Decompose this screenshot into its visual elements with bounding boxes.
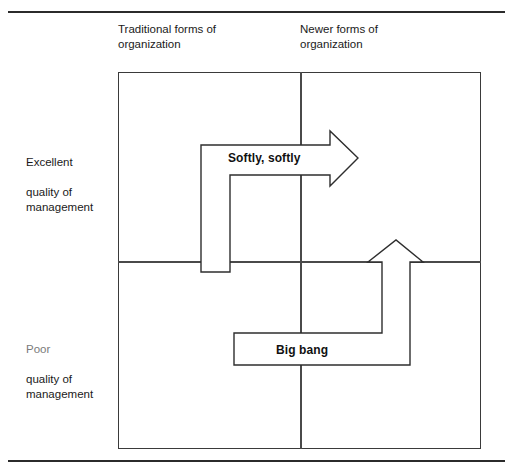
- arrow-layer: [0, 0, 514, 469]
- softly-softly-label: Softly, softly: [228, 151, 301, 165]
- figure-canvas: Traditional forms of organization Newer …: [0, 0, 514, 469]
- big-bang-label: Big bang: [276, 343, 328, 357]
- big-bang-arrow: [234, 240, 423, 365]
